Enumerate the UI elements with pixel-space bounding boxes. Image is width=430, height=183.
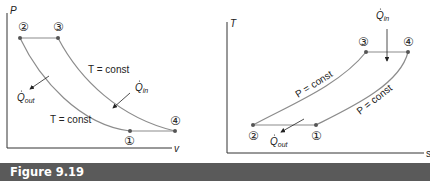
pv-heat-out: Qout — [17, 76, 49, 104]
figure-caption: Figure 9.19 — [0, 163, 430, 181]
pv-state-4-label: ④ — [170, 114, 181, 128]
ts-y-axis-label: T — [230, 18, 237, 29]
pv-heat-in: Qin — [113, 80, 148, 108]
ts-x-axis-label: s — [426, 148, 430, 159]
pv-x-axis-label: v — [174, 143, 180, 154]
ts-state-1-label: ① — [311, 129, 322, 143]
pv-heat-in-arrow — [113, 93, 130, 108]
ts-isobar-lower-label: P = const — [354, 82, 394, 117]
ts-heat-in: Qin — [376, 8, 389, 61]
pv-state-2-point — [18, 36, 22, 40]
pv-heat-out-arrow — [30, 76, 49, 89]
pv-state-2-label: ② — [18, 20, 29, 34]
pv-isotherm-upper-label: T = const — [88, 64, 129, 75]
ts-state-3-label: ③ — [358, 35, 369, 49]
svg-text:Qout: Qout — [17, 92, 36, 104]
ts-state-4-point — [406, 50, 410, 54]
ts-state-2-point — [251, 123, 255, 127]
svg-text:Qin: Qin — [376, 10, 389, 22]
ts-state-1-point — [314, 123, 318, 127]
pv-state-1-point — [128, 129, 132, 133]
pv-state-3-point — [56, 36, 60, 40]
pv-state-3-label: ③ — [53, 20, 64, 34]
pv-isotherm-lower-label: T = const — [50, 114, 91, 125]
ts-state-4-label: ④ — [403, 35, 414, 49]
svg-text:Qin: Qin — [135, 82, 148, 94]
ts-state-3-point — [364, 50, 368, 54]
pv-state-1-label: ① — [124, 134, 135, 148]
ts-state-2-label: ② — [248, 129, 259, 143]
svg-text:Qout: Qout — [270, 136, 289, 148]
ericsson-cycle-diagrams: P v ② ③ ① ④ T = const T = const Qin Qout — [0, 0, 430, 160]
pv-state-4-point — [173, 129, 177, 133]
ts-heat-out: Qout — [270, 119, 304, 148]
pv-diagram: P v ② ③ ① ④ T = const T = const Qin Qout — [7, 5, 181, 154]
pv-y-axis-label: P — [10, 5, 17, 16]
ts-diagram: T s ③ ④ ② ① P = const P = const Qin Qout — [227, 8, 430, 159]
